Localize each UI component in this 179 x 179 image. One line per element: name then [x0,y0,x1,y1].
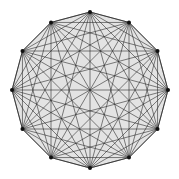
edges [12,12,168,168]
vertex [10,88,14,92]
vertex [88,166,92,170]
vertex [20,49,24,53]
vertex [88,10,92,14]
vertex [166,88,170,92]
vertex [156,127,160,131]
vertex [49,156,53,160]
vertex [49,20,53,24]
complete-graph-diagram [0,0,179,179]
vertex [127,156,131,160]
vertex [20,127,24,131]
vertex [156,49,160,53]
vertex [127,20,131,24]
